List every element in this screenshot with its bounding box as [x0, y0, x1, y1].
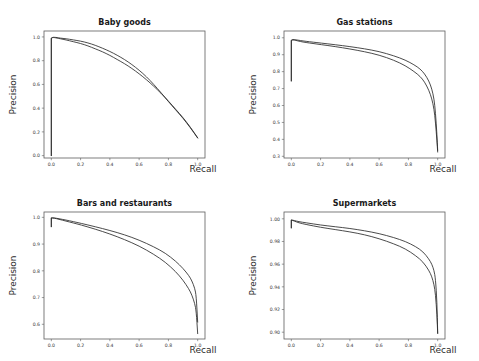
subplot-supermarkets: 0.00.20.40.60.81.00.900.920.940.960.981.…: [240, 181, 479, 361]
subplot-title: Bars and restaurants: [77, 199, 173, 208]
y-tick-label: 0.4: [33, 106, 40, 111]
y-axis-label: Precision: [8, 74, 18, 114]
y-tick-label: 1.0: [33, 215, 40, 220]
subplot-title: Baby goods: [98, 18, 151, 27]
y-tick-label: 0.5: [273, 120, 280, 125]
y-tick-label: 0.3: [273, 154, 280, 159]
x-tick-label: 0.0: [48, 162, 55, 167]
x-tick-label: 0.8: [165, 162, 172, 167]
y-tick-label: 0.90: [270, 330, 280, 335]
y-axis-label: Precision: [248, 255, 258, 295]
y-tick-label: 0.8: [33, 269, 40, 274]
y-tick-label: 0.0: [33, 153, 40, 158]
y-axis-label: Precision: [248, 74, 258, 114]
precision-recall-figure: 0.00.20.40.60.81.00.00.20.40.60.81.0Baby…: [0, 0, 479, 361]
x-tick-label: 0.6: [375, 343, 382, 348]
y-tick-label: 0.94: [270, 285, 280, 290]
x-tick-label: 0.6: [135, 343, 142, 348]
y-tick-label: 0.96: [270, 262, 280, 267]
x-tick-label: 0.0: [288, 162, 295, 167]
x-tick-label: 0.2: [77, 162, 84, 167]
y-tick-label: 0.8: [33, 58, 40, 63]
x-tick-label: 0.4: [106, 343, 113, 348]
pr-curve-curve-b: [51, 218, 197, 322]
subplot-baby-goods: 0.00.20.40.60.81.00.00.20.40.60.81.0Baby…: [0, 0, 239, 180]
y-tick-label: 0.4: [273, 137, 280, 142]
y-tick-label: 0.9: [273, 52, 280, 57]
x-tick-label: 0.4: [346, 343, 353, 348]
x-tick-label: 0.4: [106, 162, 113, 167]
x-tick-label: 0.2: [77, 343, 84, 348]
y-tick-label: 1.00: [270, 217, 280, 222]
y-tick-label: 0.9: [33, 242, 40, 247]
axes-frame: [44, 31, 205, 158]
x-tick-label: 0.4: [346, 162, 353, 167]
subplot-bars-and-restaurants: 0.00.20.40.60.81.00.60.70.80.91.0Bars an…: [0, 181, 239, 361]
pr-curve-curve-b: [291, 40, 437, 151]
y-tick-label: 0.6: [33, 82, 40, 87]
y-tick-label: 0.2: [33, 130, 40, 135]
subplot-gas-stations: 0.00.20.40.60.81.00.30.40.50.60.70.80.91…: [240, 0, 479, 180]
x-axis-label: Recall: [190, 164, 217, 174]
y-axis-label: Precision: [8, 255, 18, 295]
x-axis-label: Recall: [430, 164, 457, 174]
pr-curve-curve-b: [51, 37, 197, 155]
subplot-title: Supermarkets: [333, 199, 397, 208]
axes-frame: [44, 212, 205, 339]
x-tick-label: 0.8: [405, 162, 412, 167]
x-tick-label: 0.2: [317, 162, 324, 167]
x-tick-label: 0.6: [375, 162, 382, 167]
y-tick-label: 0.8: [273, 69, 280, 74]
y-tick-label: 0.7: [273, 86, 280, 91]
x-tick-label: 0.8: [405, 343, 412, 348]
x-axis-label: Recall: [430, 345, 457, 355]
x-tick-label: 0.0: [48, 343, 55, 348]
pr-curve-curve-a: [291, 220, 437, 333]
y-tick-label: 0.6: [33, 322, 40, 327]
x-tick-label: 0.0: [288, 343, 295, 348]
x-axis-label: Recall: [190, 345, 217, 355]
y-tick-label: 1.0: [33, 35, 40, 40]
pr-curve-curve-a: [51, 38, 197, 156]
x-tick-label: 0.2: [317, 343, 324, 348]
x-tick-label: 0.6: [135, 162, 142, 167]
axes-frame: [284, 31, 445, 158]
pr-curve-curve-b: [291, 220, 437, 333]
subplot-title: Gas stations: [336, 18, 392, 27]
y-tick-label: 0.98: [270, 239, 280, 244]
y-tick-label: 0.92: [270, 307, 280, 312]
y-tick-label: 0.6: [273, 103, 280, 108]
y-tick-label: 1.0: [273, 35, 280, 40]
y-tick-label: 0.7: [33, 295, 40, 300]
pr-curve-curve-a: [291, 40, 437, 152]
x-tick-label: 0.8: [165, 343, 172, 348]
